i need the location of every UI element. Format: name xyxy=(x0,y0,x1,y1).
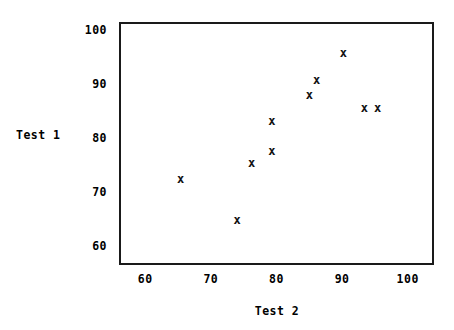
x-axis-title: Test 2 xyxy=(227,304,327,318)
y-tick-label: 100 xyxy=(67,24,107,36)
data-point-marker: x xyxy=(372,102,383,115)
data-point-marker: x xyxy=(246,157,257,170)
data-point-marker: x xyxy=(232,214,243,227)
x-tick-label: 80 xyxy=(253,273,301,285)
y-tick-label: 70 xyxy=(67,186,107,198)
y-tick-label: 60 xyxy=(67,240,107,252)
y-tick-label: 90 xyxy=(67,78,107,90)
x-tick-label: 90 xyxy=(318,273,366,285)
y-axis-title: Test 1 xyxy=(16,128,76,142)
y-axis-tick-labels: 60708090100 xyxy=(61,22,107,265)
x-tick-label: 100 xyxy=(384,273,432,285)
data-point-marker: x xyxy=(175,173,186,186)
plot-data-area: xxxxxxxxxx xyxy=(119,22,434,265)
data-point-marker: x xyxy=(311,74,322,87)
data-point-marker: x xyxy=(304,89,315,102)
data-point-marker: x xyxy=(266,115,277,128)
scatter-plot-figure: 60708090100 60708090100 xxxxxxxxxx Test … xyxy=(0,0,454,330)
data-point-marker: x xyxy=(338,47,349,60)
x-axis-tick-labels: 60708090100 xyxy=(119,273,434,289)
data-point-marker: x xyxy=(266,145,277,158)
data-point-marker: x xyxy=(359,102,370,115)
x-tick-label: 70 xyxy=(187,273,235,285)
x-tick-label: 60 xyxy=(121,273,169,285)
